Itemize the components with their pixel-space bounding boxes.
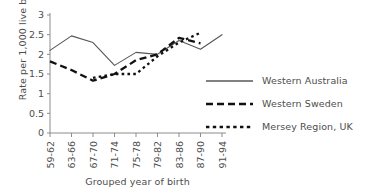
series-line-mersey-region-uk — [93, 33, 201, 78]
x-tick-label: 83-86 — [174, 141, 185, 169]
legend-label-mersey-region-uk: Mersey Region, UK — [262, 121, 353, 132]
legend-label-western-sweden: Western Sweden — [262, 98, 343, 109]
y-tick-label: 3 — [38, 9, 44, 20]
legend-item-mersey-region-uk: Mersey Region, UK — [206, 115, 373, 138]
legend-item-western-australia: Western Australia — [206, 69, 373, 92]
x-tick-label: 59-62 — [45, 141, 56, 169]
y-tick-label: 2.5 — [29, 29, 44, 40]
y-tick-label: 0 — [38, 127, 44, 138]
x-tick-label: 63-66 — [66, 141, 77, 169]
y-tick-label: 1.5 — [29, 68, 44, 79]
chart-figure: Rate per 1,000 live births Grouped year … — [0, 0, 373, 195]
y-tick-label: 1 — [38, 88, 44, 99]
legend-swatch-short-dash-icon — [206, 121, 253, 133]
legend-swatch-solid-icon — [206, 75, 253, 87]
x-tick-label: 67-70 — [88, 141, 99, 169]
x-tick-label: 87-90 — [195, 141, 206, 169]
y-tick-label: 2 — [38, 49, 44, 60]
y-axis-tick-group: 00.511.522.53 — [29, 9, 50, 138]
legend-item-western-sweden: Western Sweden — [206, 92, 373, 115]
x-axis-tick-group: 59-6263-6667-7071-7475-7879-8283-8687-90… — [45, 133, 228, 169]
x-tick-label: 71-74 — [109, 141, 120, 169]
legend-label-western-australia: Western Australia — [262, 75, 348, 86]
x-tick-label: 91-94 — [217, 141, 228, 169]
legend-swatch-long-dash-icon — [206, 98, 253, 110]
legend: Western Australia Western Sweden Mersey … — [206, 69, 373, 138]
x-tick-label: 75-78 — [131, 141, 142, 169]
x-tick-label: 79-82 — [152, 141, 163, 169]
y-tick-label: 0.5 — [29, 108, 44, 119]
